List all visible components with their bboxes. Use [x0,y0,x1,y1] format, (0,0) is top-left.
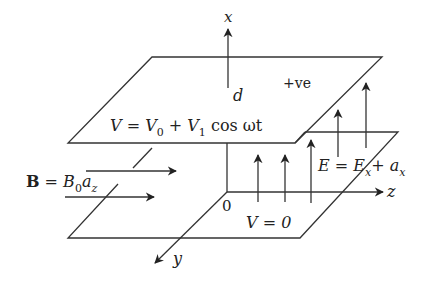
parallel-plate-diagram: x d +ve V = V0 + V1 cos ωt B = B0az E = … [0,0,430,287]
origin-label: 0 [222,197,232,215]
electric-field-label: E = Ex+ ax [317,156,406,179]
magnetic-field-label: B = B0az [26,172,97,195]
y-axis-label: y [172,249,183,268]
charge-label: +ve [283,75,311,91]
z-axis-label: z [386,182,396,201]
bottom-plate [68,132,398,238]
top-plate-potential: V = V0 + V1 cos ωt [110,116,263,139]
x-axis-label: x [224,8,233,26]
separation-label: d [233,86,243,105]
y-axis-arrow [155,192,227,263]
bottom-plate-potential: V = 0 [246,213,291,232]
